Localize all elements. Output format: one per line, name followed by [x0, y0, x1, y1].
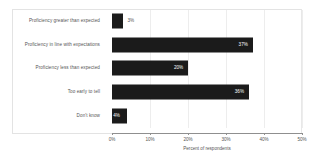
- bar-value-label: 4%: [113, 113, 120, 119]
- bar-value-label: 37%: [239, 42, 248, 48]
- x-axis-tick: [188, 133, 189, 135]
- x-axis-tick: [264, 133, 265, 135]
- gridline: [302, 10, 303, 128]
- x-axis-tick-label: 40%: [259, 137, 268, 143]
- bar-row: Don't know4%: [12, 104, 302, 128]
- bar-value-label: 20%: [174, 65, 183, 71]
- bar-row: Proficiency in line with expectations37%: [12, 33, 302, 57]
- x-axis-tick-label: 0%: [109, 137, 116, 143]
- x-axis-tick-label: 20%: [183, 137, 192, 143]
- bar-value-label: 3%: [127, 18, 134, 24]
- x-axis-tick-label: 50%: [297, 137, 306, 143]
- x-axis-title: Percent of respondents: [112, 146, 302, 152]
- bar-row: Proficiency less than expected20%: [12, 57, 302, 81]
- category-label: Too early to tell: [68, 89, 100, 95]
- bar-value-label: 36%: [235, 89, 244, 95]
- bar-row: Too early to tell36%: [12, 80, 302, 104]
- bar-chart: Proficiency greater than expected3%Profi…: [0, 0, 315, 163]
- x-axis-tick: [112, 133, 113, 135]
- bar[interactable]: [112, 85, 249, 100]
- x-axis: 0%10%20%30%40%50%: [112, 133, 302, 134]
- bar[interactable]: [112, 37, 253, 52]
- x-axis-tick: [150, 133, 151, 135]
- x-axis-tick: [302, 133, 303, 135]
- category-label: Proficiency less than expected: [36, 65, 100, 71]
- bar[interactable]: [112, 13, 123, 28]
- x-axis-tick: [226, 133, 227, 135]
- category-label: Proficiency greater than expected: [29, 18, 100, 24]
- bar-row: Proficiency greater than expected3%: [12, 9, 302, 33]
- category-label: Don't know: [77, 113, 100, 119]
- x-axis-tick-label: 10%: [145, 137, 154, 143]
- bar-rows: Proficiency greater than expected3%Profi…: [12, 9, 302, 128]
- category-label: Proficiency in line with expectations: [25, 42, 100, 48]
- x-axis-tick-label: 30%: [221, 137, 230, 143]
